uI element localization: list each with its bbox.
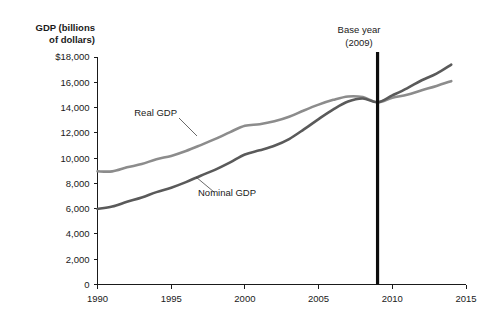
y-tick-label: 16,000 — [60, 77, 89, 88]
y-tick-label: 0 — [84, 279, 89, 290]
y-tick-label: 12,000 — [60, 127, 89, 138]
chart-canvas: GDP (billions of dollars) 02,0004,0006,0… — [0, 0, 486, 328]
series-line-real-gdp — [98, 81, 452, 172]
x-tick-label: 1995 — [161, 293, 182, 304]
base-year-label-line1: Base year — [338, 24, 381, 35]
x-tick-label: 2000 — [234, 293, 255, 304]
x-axis-ticks: 199019952000200520102015 — [87, 285, 477, 304]
y-tick-label: $18,000 — [55, 51, 89, 62]
y-tick-label: 14,000 — [60, 102, 89, 113]
x-tick-label: 1990 — [87, 293, 108, 304]
y-tick-label: 4,000 — [66, 228, 90, 239]
base-year-label-line2: (2009) — [345, 37, 372, 48]
series-group — [98, 65, 452, 209]
y-tick-label: 2,000 — [66, 254, 90, 265]
nominal-gdp-label: Nominal GDP — [198, 187, 256, 198]
y-axis-ticks: 02,0004,0006,0008,00010,00012,00014,0001… — [55, 51, 97, 290]
gdp-chart: GDP (billions of dollars) 02,0004,0006,0… — [0, 0, 486, 328]
y-tick-label: 10,000 — [60, 153, 89, 164]
x-tick-label: 2010 — [382, 293, 403, 304]
x-tick-label: 2005 — [308, 293, 329, 304]
x-tick-label: 2015 — [455, 293, 476, 304]
real-gdp-leader-line — [179, 118, 197, 136]
y-tick-label: 8,000 — [66, 178, 90, 189]
y-axis-title-line2: of dollars) — [49, 34, 95, 45]
y-axis-title-line1: GDP (billions — [36, 22, 95, 33]
real-gdp-label: Real GDP — [134, 107, 177, 118]
y-tick-label: 6,000 — [66, 203, 90, 214]
series-line-nominal-gdp — [98, 65, 452, 209]
